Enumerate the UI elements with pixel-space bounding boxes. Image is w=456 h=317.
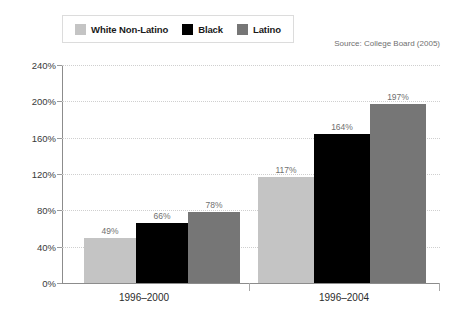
bar-chart: White Non-Latino Black Latino Source: Co… [0,0,456,317]
ytick-mark-240 [57,65,62,66]
bar-g1-black[interactable] [136,223,188,283]
ytick-mark-120 [57,174,62,175]
bar-g1-latino[interactable] [188,212,240,283]
bar-value-g2-latino: 197% [368,92,428,102]
ytick-label-240: 240% [16,60,56,71]
bar-g2-black[interactable] [314,134,370,283]
category-end-tick [439,283,440,291]
bar-wrap-g1-white-non-latino: 49% [84,65,136,283]
legend-swatch-black [182,24,193,35]
bar-value-g2-black: 164% [312,122,372,132]
bar-wrap-g2-latino: 197% [370,65,426,283]
ytick-mark-80 [57,210,62,211]
ytick-mark-0 [57,283,62,284]
category-label-1996-2000: 1996–2000 [84,292,204,303]
bar-wrap-g1-latino: 78% [188,65,240,283]
bar-value-g1-white-non-latino: 49% [80,226,140,236]
legend-item-white-non-latino: White Non-Latino [75,24,168,35]
legend-label-white-non-latino: White Non-Latino [91,24,168,35]
axis-baseline [62,283,440,284]
legend-swatch-white-non-latino [75,24,86,35]
bar-group-1996-2004: 117% 164% 197% [258,65,426,283]
bar-value-g1-latino: 78% [184,200,244,210]
bar-g2-white-non-latino[interactable] [258,177,314,283]
bar-g1-white-non-latino[interactable] [84,238,136,283]
bar-value-g1-black: 66% [132,211,192,221]
bar-group-1996-2000: 49% 66% 78% [84,65,240,283]
ytick-label-80: 80% [16,205,56,216]
category-separator-tick [249,283,250,291]
ytick-label-0: 0% [16,278,56,289]
ytick-label-40: 40% [16,241,56,252]
bar-g2-latino[interactable] [370,104,426,283]
ytick-mark-200 [57,101,62,102]
legend-item-latino: Latino [237,24,281,35]
bar-wrap-g1-black: 66% [136,65,188,283]
plot-area: 49% 66% 78% 117% 164% 197% [62,65,440,283]
legend-label-black: Black [198,24,223,35]
bar-wrap-g2-white-non-latino: 117% [258,65,314,283]
legend-swatch-latino [237,24,248,35]
chart-legend: White Non-Latino Black Latino [62,15,294,43]
bar-wrap-g2-black: 164% [314,65,370,283]
bar-value-g2-white-non-latino: 117% [256,165,316,175]
source-note: Source: College Board (2005) [334,39,440,48]
ytick-mark-40 [57,247,62,248]
legend-item-black: Black [182,24,223,35]
ytick-mark-160 [57,138,62,139]
ytick-label-160: 160% [16,132,56,143]
ytick-label-200: 200% [16,96,56,107]
legend-label-latino: Latino [253,24,281,35]
category-label-1996-2004: 1996–2004 [284,292,404,303]
ytick-label-120: 120% [16,169,56,180]
